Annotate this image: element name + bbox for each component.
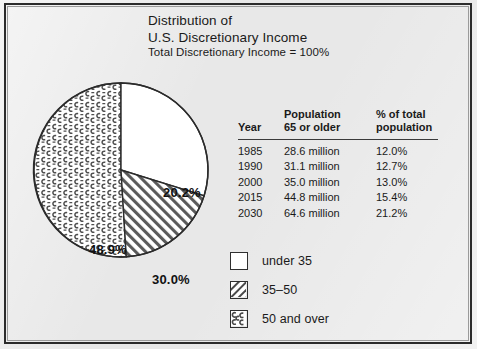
chart-title-block: Distribution of U.S. Discretionary Incom…	[148, 14, 329, 59]
cell-year: 2000	[238, 174, 284, 190]
cell-percent: 21.2%	[376, 205, 438, 221]
cell-population: 44.8 million	[284, 189, 376, 205]
table-row: 199031.1 million12.7%	[238, 158, 438, 174]
column-header-population: Population 65 or older	[284, 108, 376, 135]
table-header-row: Year Population 65 or older % of total p…	[238, 108, 438, 135]
chart-title-line-1: Distribution of	[148, 14, 329, 28]
pie-chart: 20.2% 30.0% 48.9%	[30, 79, 212, 261]
table-row: 201544.8 million15.4%	[238, 189, 438, 205]
legend-swatch-35-50-icon	[230, 281, 248, 299]
table-row: 203064.6 million21.2%	[238, 205, 438, 221]
column-header-percent: % of total population	[376, 108, 438, 135]
chart-legend: under 35 35–50	[230, 252, 329, 328]
population-table-grid: Year Population 65 or older % of total p…	[238, 108, 438, 221]
table-row: 198528.6 million12.0%	[238, 139, 438, 158]
cell-population: 28.6 million	[284, 139, 376, 158]
column-header-population-line2: 65 or older	[284, 121, 340, 133]
table-row: 200035.0 million13.0%	[238, 174, 438, 190]
cell-percent: 12.0%	[376, 139, 438, 158]
cell-year: 2015	[238, 189, 284, 205]
column-header-population-line1: Population	[284, 108, 341, 120]
chart-subtitle: Total Discretionary Income = 100%	[148, 47, 329, 59]
pie-chart-svg	[30, 79, 212, 261]
cell-percent: 13.0%	[376, 174, 438, 190]
table-head: Year Population 65 or older % of total p…	[238, 108, 438, 139]
column-header-percent-line1: % of total	[376, 108, 426, 120]
cell-year: 1990	[238, 158, 284, 174]
legend-label-50-and-over: 50 and over	[262, 312, 329, 326]
column-header-percent-line2: population	[376, 121, 432, 133]
legend-item-50-and-over: 50 and over	[230, 310, 329, 328]
legend-label-35-50: 35–50	[262, 283, 297, 297]
column-header-year-line1: Year	[238, 121, 261, 133]
chart-title-line-2: U.S. Discretionary Income	[148, 31, 329, 45]
legend-swatch-under-35-icon	[230, 252, 248, 270]
cell-percent: 15.4%	[376, 189, 438, 205]
cell-population: 31.1 million	[284, 158, 376, 174]
pie-label-under-35: 20.2%	[163, 185, 201, 200]
legend-swatch-50-and-over-icon	[230, 310, 248, 328]
legend-label-under-35: under 35	[262, 254, 312, 268]
chart-figure: Distribution of U.S. Discretionary Incom…	[0, 0, 477, 349]
cell-year: 1985	[238, 139, 284, 158]
column-header-year: Year	[238, 108, 284, 135]
population-table: Year Population 65 or older % of total p…	[238, 108, 438, 221]
pie-slice-50-and-over	[33, 83, 126, 257]
cell-year: 2030	[238, 205, 284, 221]
cell-percent: 12.7%	[376, 158, 438, 174]
legend-item-35-50: 35–50	[230, 281, 329, 299]
pie-label-35-50: 30.0%	[152, 272, 190, 287]
cell-population: 35.0 million	[284, 174, 376, 190]
cell-population: 64.6 million	[284, 205, 376, 221]
legend-item-under-35: under 35	[230, 252, 329, 270]
table-body: 198528.6 million12.0%199031.1 million12.…	[238, 139, 438, 220]
pie-label-50-and-over: 48.9%	[89, 242, 127, 257]
